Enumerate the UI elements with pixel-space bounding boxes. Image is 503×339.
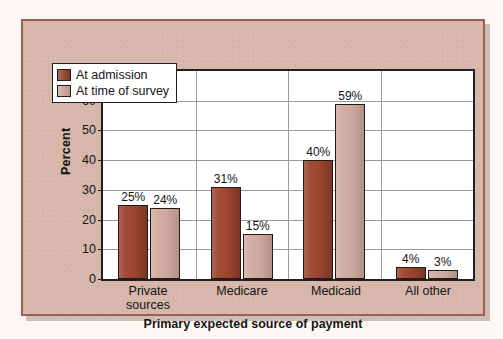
y-tick-mark <box>98 160 103 161</box>
legend-swatch-icon-at-time-of-survey <box>57 85 71 97</box>
y-tick-label: 50 <box>82 123 96 137</box>
bar-value-label: 4% <box>402 252 419 266</box>
chart-figure: Percent 01020304050607025%24%31%15%40%59… <box>0 0 503 339</box>
y-tick-label: 40 <box>82 153 96 167</box>
bar-all-other-at-admission: 4% <box>396 267 426 279</box>
category-label-medicare: Medicare <box>195 284 289 298</box>
category-label-private-sources: Private sources <box>101 284 195 312</box>
bar-all-other-at-time-of-survey: 3% <box>428 270 458 279</box>
bar-value-label: 40% <box>306 145 330 159</box>
category-label-medicaid: Medicaid <box>289 284 383 298</box>
y-tick-mark <box>98 249 103 250</box>
category-label-line-2: sources <box>101 298 195 312</box>
y-tick-label: 0 <box>89 272 96 286</box>
legend-swatch-icon-at-admission <box>57 69 71 81</box>
legend-item-at-time-of-survey: At time of survey <box>57 83 169 99</box>
bar-value-label: 3% <box>434 255 451 269</box>
bar-medicare-at-admission: 31% <box>211 187 241 279</box>
category-label-line-1: All other <box>381 284 475 298</box>
chart-legend: At admission At time of survey <box>52 63 177 103</box>
bar-medicare-at-time-of-survey: 15% <box>243 234 273 279</box>
bar-value-label: 31% <box>214 172 238 186</box>
bar-value-label: 25% <box>121 190 145 204</box>
bar-value-label: 15% <box>246 219 270 233</box>
y-tick-mark <box>98 130 103 131</box>
y-tick-label: 20 <box>82 213 96 227</box>
bar-private-sources-at-admission: 25% <box>118 205 148 279</box>
legend-label-at-admission: At admission <box>76 68 148 82</box>
category-separator-gridline <box>288 71 289 279</box>
bar-value-label: 24% <box>153 193 177 207</box>
legend-label-at-time-of-survey: At time of survey <box>76 84 169 98</box>
category-label-line-1: Medicare <box>195 284 289 298</box>
category-label-line-1: Medicaid <box>289 284 383 298</box>
category-separator-gridline <box>381 71 382 279</box>
y-tick-mark <box>98 279 103 280</box>
y-axis-title: Percent <box>59 128 73 175</box>
bar-medicaid-at-admission: 40% <box>303 160 333 279</box>
x-axis-title: Primary expected source of payment <box>23 317 483 331</box>
bar-medicaid-at-time-of-survey: 59% <box>335 104 365 279</box>
y-tick-mark <box>98 190 103 191</box>
bar-private-sources-at-time-of-survey: 24% <box>150 208 180 279</box>
legend-item-at-admission: At admission <box>57 67 169 83</box>
y-tick-label: 30 <box>82 183 96 197</box>
category-separator-gridline <box>196 71 197 279</box>
category-label-all-other: All other <box>381 284 475 298</box>
chart-panel: Percent 01020304050607025%24%31%15%40%59… <box>21 19 485 316</box>
y-tick-label: 10 <box>82 242 96 256</box>
y-tick-mark <box>98 220 103 221</box>
bar-value-label: 59% <box>338 89 362 103</box>
category-label-line-1: Private <box>101 284 195 298</box>
